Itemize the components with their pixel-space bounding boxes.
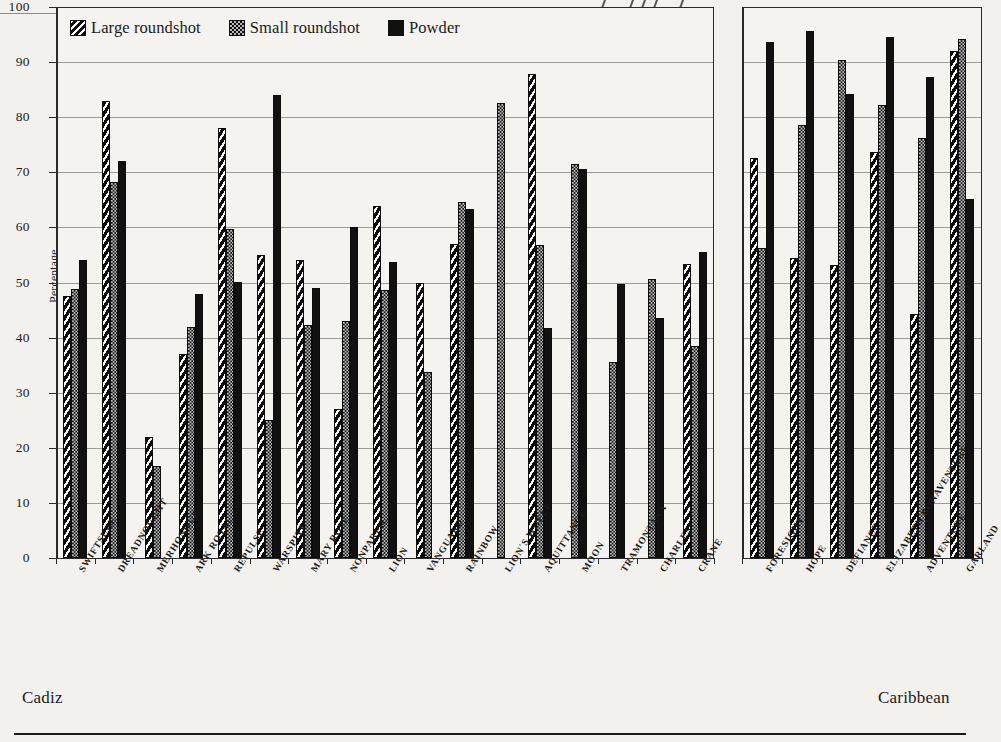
bar-powder <box>312 288 320 558</box>
gridline <box>56 558 714 559</box>
bar-group <box>482 7 521 558</box>
plot-area-cadiz <box>56 7 714 558</box>
solid-swatch-icon <box>388 20 404 36</box>
bar-group <box>675 7 714 558</box>
bar-group <box>443 7 482 558</box>
y-axis-tick <box>49 7 56 8</box>
bar-large-roundshot <box>416 283 424 559</box>
bar-small-roundshot <box>497 103 505 558</box>
bar-powder <box>966 199 974 558</box>
bar-group <box>782 7 822 558</box>
y-axis-tick-labels: 1009080706050403020100 <box>0 0 44 570</box>
bar-group <box>404 7 443 558</box>
bar-group <box>327 7 366 558</box>
bottom-rule <box>14 733 966 735</box>
bar-group <box>637 7 676 558</box>
bar-powder <box>234 282 242 558</box>
bar-group <box>288 7 327 558</box>
bar-small-roundshot <box>958 39 966 558</box>
x-axis-labels-caribbean: FORESIGHTHOPEDEFIANCEELIZABETH BONAVENTU… <box>742 560 982 690</box>
chart-legend: Large roundshot Small roundshot Powder <box>70 16 490 40</box>
bar-group <box>211 7 250 558</box>
bar-group <box>742 7 782 558</box>
bar-large-roundshot <box>870 152 878 558</box>
y-axis-tick <box>49 227 56 228</box>
bar-large-roundshot <box>218 128 226 558</box>
bar-powder <box>118 161 126 558</box>
y-axis-label: 70 <box>0 164 30 180</box>
bar-small-roundshot <box>458 202 466 558</box>
bar-small-roundshot <box>571 164 579 558</box>
bar-large-roundshot <box>257 255 265 558</box>
bar-small-roundshot <box>609 362 617 558</box>
legend-item-powder: Powder <box>388 18 460 38</box>
diagonal-hatch-swatch-icon <box>70 20 86 36</box>
bar-powder <box>846 94 854 558</box>
bar-large-roundshot <box>145 437 153 558</box>
x-axis-labels-cadiz: SWIFTSUREDREADNOUGHTMERHONOURARK ROYALRE… <box>56 560 714 680</box>
bar-small-roundshot <box>918 138 926 558</box>
bar-group <box>902 7 942 558</box>
bar-small-roundshot <box>424 372 432 558</box>
y-axis-label: 90 <box>0 54 30 70</box>
bar-powder <box>579 169 587 558</box>
bar-large-roundshot <box>683 264 691 558</box>
x-axis-tick <box>714 558 715 564</box>
bar-small-roundshot <box>758 248 766 558</box>
bar-powder <box>350 227 358 558</box>
bar-powder <box>466 209 474 558</box>
y-axis-tick <box>49 448 56 449</box>
y-axis-label: 10 <box>0 495 30 511</box>
y-axis-label: 30 <box>0 385 30 401</box>
panel-cadiz <box>56 7 714 558</box>
bar-powder <box>766 42 774 558</box>
bar-group <box>95 7 134 558</box>
bar-large-roundshot <box>830 265 838 558</box>
y-axis-tick <box>49 283 56 284</box>
caption-caribbean: Caribbean <box>878 688 950 708</box>
bar-large-roundshot <box>528 74 536 558</box>
caption-cadiz: Cadiz <box>22 688 63 708</box>
bar-group <box>862 7 902 558</box>
x-axis-tick <box>982 558 983 564</box>
legend-label: Powder <box>409 18 460 38</box>
y-axis-label: 50 <box>0 275 30 291</box>
bar-group <box>366 7 405 558</box>
bar-large-roundshot <box>102 101 110 558</box>
bar-large-roundshot <box>450 244 458 558</box>
bar-group <box>822 7 862 558</box>
bar-small-roundshot <box>110 182 118 558</box>
y-axis-tick <box>49 393 56 394</box>
bar-large-roundshot <box>950 51 958 558</box>
bar-small-roundshot <box>226 229 234 558</box>
y-axis-label: 0 <box>0 550 30 566</box>
checker-swatch-icon <box>229 20 245 36</box>
legend-item-small-roundshot: Small roundshot <box>229 18 360 38</box>
bar-small-roundshot <box>71 289 79 558</box>
legend-label: Large roundshot <box>91 18 201 38</box>
bar-powder <box>699 252 707 558</box>
bar-powder <box>617 284 625 558</box>
bar-large-roundshot <box>296 260 304 558</box>
bar-group <box>133 7 172 558</box>
bar-group <box>598 7 637 558</box>
y-axis-label: 40 <box>0 330 30 346</box>
y-axis: 1009080706050403020100 Percentage <box>0 0 60 570</box>
bar-large-roundshot <box>750 158 758 558</box>
y-axis-tick <box>49 338 56 339</box>
bar-large-roundshot <box>373 206 381 558</box>
bar-small-roundshot <box>265 420 273 558</box>
bar-group <box>520 7 559 558</box>
bar-small-roundshot <box>691 346 699 558</box>
bar-powder <box>79 260 87 558</box>
y-axis-tick <box>49 117 56 118</box>
y-axis-tick <box>49 503 56 504</box>
y-axis-tick <box>49 172 56 173</box>
y-axis-tick <box>49 558 56 559</box>
y-axis-label: 20 <box>0 440 30 456</box>
y-axis-label: 100 <box>0 0 30 15</box>
bar-powder <box>273 95 281 558</box>
bar-powder <box>389 262 397 558</box>
bar-large-roundshot <box>63 296 71 558</box>
